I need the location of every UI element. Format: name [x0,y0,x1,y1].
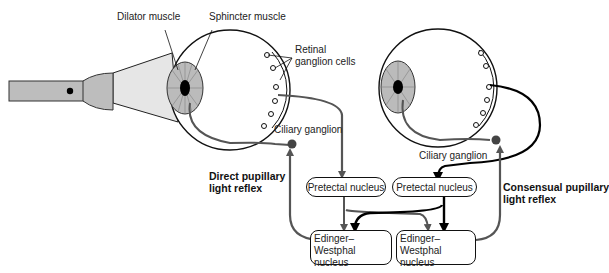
label-direct-reflex-1: Direct pupillary [209,170,285,182]
label-consensual-reflex-2: light reflex [503,193,556,205]
flashlight-icon [9,53,178,122]
label-direct-reflex-2: light reflex [209,182,262,194]
label-ciliary-ganglion-right: Ciliary ganglion [419,150,487,161]
label-retinal-ganglion-1: Retinal [295,44,326,55]
label-ciliary-ganglion-left: Ciliary ganglion [274,124,342,135]
right-eye [379,29,497,147]
node-label: Pretectal nucleus [396,182,473,193]
node-ew-left: Edinger–Westphal nucleus [310,230,392,265]
node-ew-right: Edinger–Westphal nucleus [396,230,476,265]
label-dilator-muscle: Dilator muscle [117,11,180,22]
label-retinal-ganglion-2: ganglion cells [295,56,356,67]
node-label: nucleus [314,257,388,269]
left-eye [165,30,292,150]
node-label: Edinger–Westphal [314,233,388,257]
ciliary-ganglion-right-dot [492,136,501,145]
node-pretectal-right: Pretectal nucleus [392,177,477,197]
node-label: nucleus [400,257,472,269]
node-label: Edinger–Westphal [400,233,472,257]
ciliary-ganglion-left-dot [288,140,297,149]
label-sphincter-muscle: Sphincter muscle [209,11,286,22]
label-consensual-reflex-1: Consensual pupillary [503,181,609,193]
node-pretectal-left: Pretectal nucleus [306,177,386,197]
node-label: Pretectal nucleus [308,182,385,193]
